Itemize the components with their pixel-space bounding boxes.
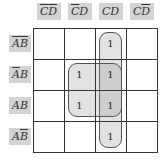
literal: A: [12, 99, 20, 112]
literal: B: [20, 99, 28, 112]
row-header-2: AB: [9, 97, 31, 114]
cell-r1-c1: 1: [64, 59, 95, 90]
column-header-2: CD: [99, 3, 123, 20]
row-header-3: AB: [9, 128, 31, 145]
cell-r3-c0: [33, 121, 64, 152]
column-header-1: CD: [68, 3, 92, 20]
cell-r1-c3: [126, 59, 157, 90]
cell-r1-c2: 1: [95, 59, 126, 90]
cell-r2-c3: [126, 90, 157, 121]
literal: D: [48, 5, 57, 18]
cell-r2-c1: 1: [64, 90, 95, 121]
cell-r3-c3: [126, 121, 157, 152]
literal: A: [12, 37, 20, 50]
column-header-0: CD: [37, 3, 61, 20]
column-header-3: CD: [130, 3, 154, 20]
cell-r2-c0: [33, 90, 64, 121]
row-header-0: AB: [9, 35, 31, 52]
literal: D: [110, 5, 119, 18]
cell-r3-c1: [64, 121, 95, 152]
cell-r0-c0: [33, 28, 64, 59]
literal: D: [141, 5, 150, 18]
literal: B: [20, 37, 28, 50]
karnaugh-map-grid: 111111: [33, 28, 157, 152]
cell-r3-c2: 1: [95, 121, 126, 152]
cell-r1-c0: [33, 59, 64, 90]
literal: A: [12, 68, 20, 81]
literal: B: [20, 68, 28, 81]
literal: A: [12, 130, 20, 143]
cell-r0-c2: 1: [95, 28, 126, 59]
row-header-1: AB: [9, 66, 31, 83]
literal: B: [20, 130, 28, 143]
grid-line-vertical: [157, 28, 158, 153]
literal: D: [79, 5, 88, 18]
cell-r0-c3: [126, 28, 157, 59]
cell-r2-c2: 1: [95, 90, 126, 121]
cell-r0-c1: [64, 28, 95, 59]
grid-line-horizontal: [33, 152, 158, 153]
